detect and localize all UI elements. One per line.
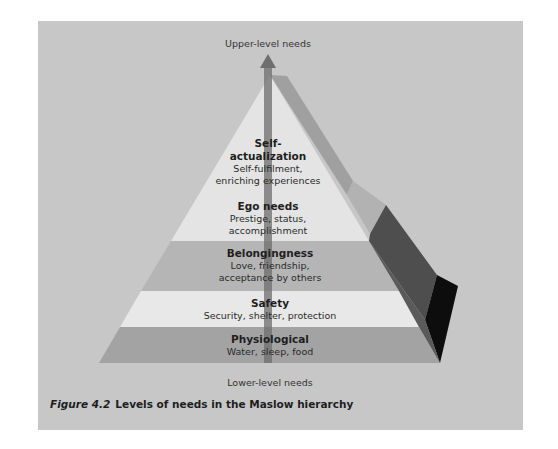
level-title: actualization [216,150,321,163]
lower-level-label: Lower-level needs [227,377,313,388]
level-self-actualization: Self- actualization Self-fulfilment, enr… [216,137,321,187]
level-desc: Prestige, status, [229,213,307,225]
level-title: Ego needs [229,200,307,213]
level-desc: accomplishment [229,225,307,237]
upper-level-label: Upper-level needs [225,38,311,49]
level-desc: Love, friendship, [219,260,322,272]
level-title: Belongingness [219,247,322,260]
level-safety: Safety Security, shelter, protection [204,297,337,322]
level-desc: Water, sleep, food [227,346,313,358]
level-title: Self- [216,137,321,150]
level-desc: enriching experiences [216,175,321,187]
level-ego-needs: Ego needs Prestige, status, accomplishme… [229,200,307,237]
figure-caption: Figure 4.2Levels of needs in the Maslow … [50,398,353,410]
level-desc: acceptance by others [219,272,322,284]
caption-number: Figure 4.2 [50,398,110,410]
arrow-head-icon [260,54,276,68]
level-desc: Security, shelter, protection [204,310,337,322]
level-title: Safety [204,297,337,310]
level-physiological: Physiological Water, sleep, food [227,333,313,358]
level-belongingness: Belongingness Love, friendship, acceptan… [219,247,322,284]
level-title: Physiological [227,333,313,346]
level-desc: Self-fulfilment, [216,163,321,175]
caption-text: Levels of needs in the Maslow hierarchy [115,398,353,410]
